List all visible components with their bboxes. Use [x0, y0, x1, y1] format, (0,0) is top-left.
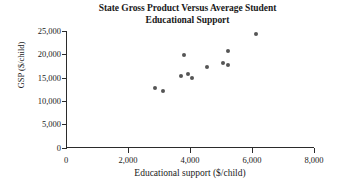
y-tick-label: 10,000 — [1, 97, 61, 106]
data-point — [221, 61, 225, 65]
y-tick-label: 20,000 — [1, 50, 61, 59]
chart-title-line-2: Educational Support — [55, 14, 320, 26]
x-tick-label: 8,000 — [287, 156, 340, 165]
x-tick-label: 6,000 — [225, 156, 279, 165]
chart-title-line-1: State Gross Product Versus Average Stude… — [55, 2, 320, 14]
data-point — [254, 32, 258, 36]
x-tick — [128, 148, 129, 153]
y-tick-label: 0 — [1, 144, 61, 153]
y-tick-label: 25,000 — [1, 27, 61, 36]
x-tick-label: 2,000 — [101, 156, 155, 165]
data-point — [186, 72, 190, 76]
x-tick — [190, 148, 191, 153]
data-point — [226, 63, 230, 67]
data-point — [190, 76, 194, 80]
plot-area — [66, 31, 314, 148]
x-tick — [314, 148, 315, 153]
data-point — [182, 53, 186, 57]
chart-title: State Gross Product Versus Average Stude… — [55, 2, 320, 26]
data-point — [153, 86, 157, 90]
scatter-chart: State Gross Product Versus Average Stude… — [0, 0, 340, 183]
x-tick-label: 0 — [39, 156, 93, 165]
data-point — [161, 89, 165, 93]
x-tick-label: 4,000 — [163, 156, 217, 165]
y-tick-label: 5,000 — [1, 120, 61, 129]
data-point — [205, 65, 209, 69]
data-point — [179, 74, 183, 78]
x-axis-title: Educational support ($/child) — [60, 168, 320, 178]
x-tick — [252, 148, 253, 153]
y-tick-label: 15,000 — [1, 74, 61, 83]
data-point — [226, 49, 230, 53]
